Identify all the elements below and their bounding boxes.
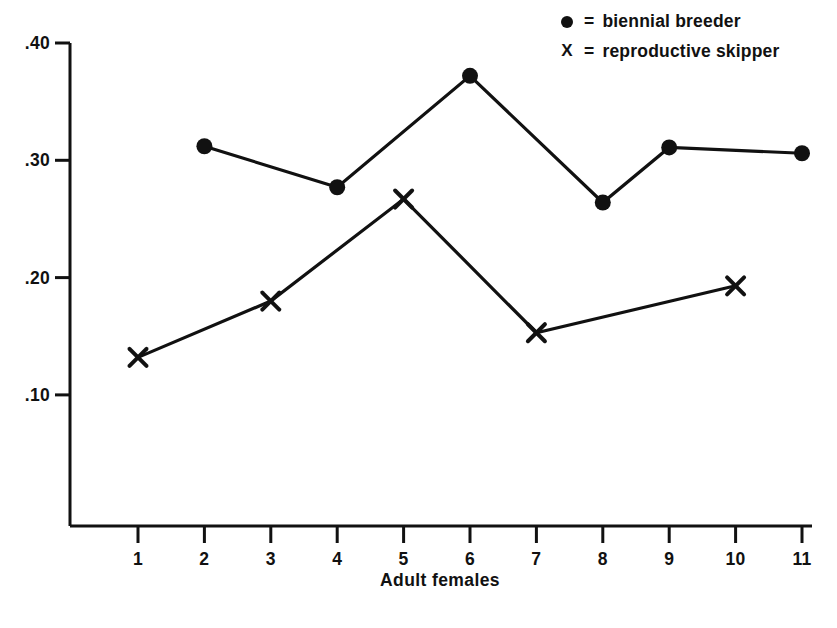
axis-lines <box>70 43 812 526</box>
data-point-filled-circle <box>595 195 611 211</box>
x-axis-tick-label: 7 <box>516 549 556 570</box>
x-axis-tick-label: 10 <box>716 549 756 570</box>
data-point-x-marker <box>262 293 279 310</box>
x-axis-tick-label: 2 <box>184 549 224 570</box>
x-axis-ticks <box>138 526 802 543</box>
series-line-reproductive-skipper <box>138 199 736 357</box>
x-axis-tick-label: 8 <box>583 549 623 570</box>
plot-canvas <box>0 0 837 628</box>
data-point-filled-circle <box>196 138 212 154</box>
x-axis-tick-label: 6 <box>450 549 490 570</box>
x-axis-tick-label: 3 <box>251 549 291 570</box>
y-axis-tick-label: .20 <box>2 267 50 288</box>
y-axis-tick-label: .10 <box>2 384 50 405</box>
x-axis-tick-label: 4 <box>317 549 357 570</box>
data-point-x-marker <box>395 191 412 208</box>
x-axis-tick-label: 9 <box>649 549 689 570</box>
x-axis-tick-label: 5 <box>384 549 424 570</box>
chart-figure: = biennial breeder X = reproductive skip… <box>0 0 837 628</box>
data-point-filled-circle <box>329 179 345 195</box>
data-point-filled-circle <box>462 68 478 84</box>
x-axis-tick-label: 11 <box>782 549 822 570</box>
series-line-biennial-breeder <box>204 76 802 203</box>
y-axis-ticks <box>55 43 70 395</box>
data-point-filled-circle <box>661 139 677 155</box>
x-axis-tick-label: 1 <box>118 549 158 570</box>
y-axis-tick-label: .40 <box>2 33 50 54</box>
y-axis-tick-label: .30 <box>2 150 50 171</box>
data-point-x-marker <box>130 349 147 366</box>
x-axis-title: Adult females <box>240 570 640 591</box>
data-point-filled-circle <box>794 145 810 161</box>
data-series-layer <box>130 68 811 366</box>
